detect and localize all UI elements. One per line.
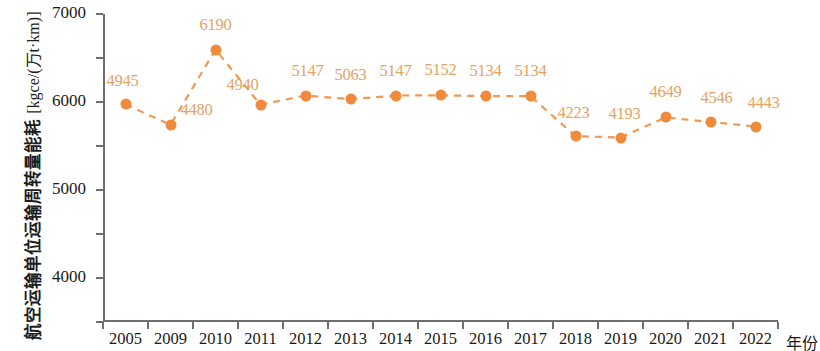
data-point-marker: [435, 90, 446, 101]
data-point-marker: [300, 90, 311, 101]
x-tick-label: 2009: [154, 329, 187, 349]
x-tick: [552, 322, 553, 329]
y-tick: 5000: [96, 101, 103, 102]
y-tick: 1000: [96, 277, 103, 278]
y-tick: 7000: [96, 13, 103, 14]
data-point-marker: [255, 99, 266, 110]
y-axis-title-wrapper: 航空运输单位运输周转量能耗 [kgce/(万t·km)]: [0, 0, 64, 351]
data-point-label: 4480: [180, 100, 212, 120]
chart-container: 航空运输单位运输周转量能耗 [kgce/(万t·km)] 01000200030…: [0, 0, 820, 351]
x-tick: [147, 322, 148, 329]
x-tick: [687, 322, 688, 329]
data-point-marker: [570, 131, 581, 142]
data-point-label: 6190: [199, 15, 231, 35]
x-axis-title: 年份: [786, 330, 818, 351]
data-point-marker: [165, 119, 176, 130]
x-tick: [192, 322, 193, 329]
data-point-label: 4193: [608, 104, 640, 124]
x-tick-label: 2010: [199, 329, 232, 349]
x-tick: [597, 322, 598, 329]
data-point-label: 5147: [291, 61, 323, 81]
data-point-label: 4443: [747, 93, 779, 113]
y-axis-title-main: 航空运输单位运输周转量能耗: [24, 119, 43, 340]
data-point-marker: [660, 112, 671, 123]
x-tick: [462, 322, 463, 329]
x-tick-label: 2017: [514, 329, 547, 349]
plot-area: 01000200030004000500060007000 2005200920…: [103, 14, 778, 322]
data-point-marker: [345, 94, 356, 105]
x-tick-label: 2020: [649, 329, 682, 349]
y-tick: 3000: [96, 189, 103, 190]
y-tick: 2000: [96, 233, 103, 234]
x-tick: [417, 322, 418, 329]
x-tick: [327, 322, 328, 329]
data-point-label: 5147: [379, 61, 411, 81]
data-point-label: 5134: [514, 61, 546, 81]
x-tick-label: 2019: [604, 329, 637, 349]
x-tick-label: 2012: [289, 329, 322, 349]
data-point-marker: [615, 132, 626, 143]
data-point-label: 5063: [334, 65, 366, 85]
y-axis-title-unit: [kgce/(万t·km)]: [25, 11, 42, 113]
x-tick: [102, 322, 103, 329]
y-axis-title: 航空运输单位运输周转量能耗 [kgce/(万t·km)]: [20, 11, 44, 340]
x-tick: [732, 322, 733, 329]
x-tick-label: 2015: [424, 329, 457, 349]
data-point-marker: [210, 44, 221, 55]
x-tick: [642, 322, 643, 329]
y-tick: 4000: [96, 145, 103, 146]
x-tick: [777, 322, 778, 329]
data-point-marker: [525, 91, 536, 102]
data-point-label: 4945: [106, 71, 138, 91]
data-point-label: 4940: [226, 75, 258, 95]
data-point-marker: [390, 90, 401, 101]
data-point-marker: [705, 116, 716, 127]
x-tick-label: 2005: [109, 329, 142, 349]
x-tick: [372, 322, 373, 329]
x-tick-label: 2011: [244, 329, 276, 349]
y-tick-label: 6000: [52, 91, 86, 111]
data-point-marker: [480, 91, 491, 102]
data-point-label: 4546: [700, 88, 732, 108]
x-tick: [507, 322, 508, 329]
x-tick-label: 2022: [739, 329, 772, 349]
x-tick-label: 2016: [469, 329, 502, 349]
data-point-label: 4649: [649, 82, 681, 102]
data-point-label: 5134: [469, 61, 501, 81]
data-point-marker: [120, 99, 131, 110]
y-tick-label: 5000: [52, 179, 86, 199]
x-tick-label: 2013: [334, 329, 367, 349]
x-tick-label: 2014: [379, 329, 412, 349]
x-tick: [237, 322, 238, 329]
y-tick-label: 4000: [52, 267, 86, 287]
x-tick-label: 2018: [559, 329, 592, 349]
x-tick-label: 2021: [694, 329, 727, 349]
y-tick: 6000: [96, 57, 103, 58]
x-tick: [282, 322, 283, 329]
data-point-label: 4223: [557, 103, 589, 123]
data-point-marker: [750, 121, 761, 132]
y-tick-label: 7000: [52, 3, 86, 23]
data-point-label: 5152: [424, 60, 456, 80]
